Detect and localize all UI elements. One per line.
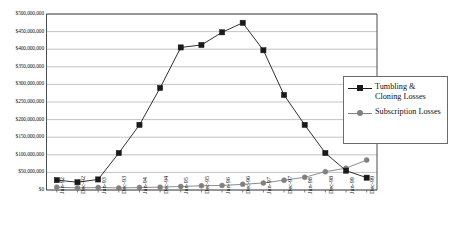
x-axis-tick-label: Jun-98 bbox=[307, 177, 313, 194]
legend-square-marker-icon bbox=[348, 84, 372, 93]
x-axis-tick-label: Jun-99 bbox=[349, 177, 355, 194]
chart-legend: Tumbling & Cloning LossesSubscription Lo… bbox=[343, 76, 448, 144]
x-axis-tick-label: Jun-93 bbox=[101, 177, 107, 194]
x-axis-tick-label: Dec-96 bbox=[245, 176, 251, 194]
x-axis-tick-label: Dec-92 bbox=[80, 176, 86, 194]
x-axis-tick-label: Dec-93 bbox=[121, 176, 127, 194]
legend-label: Tumbling & Cloning Losses bbox=[375, 82, 443, 101]
x-axis-tick-label: Dec-98 bbox=[328, 176, 334, 194]
x-axis-tick-label: Jun-96 bbox=[225, 177, 231, 194]
legend-circle-marker-icon bbox=[348, 109, 372, 118]
x-axis-tick-label: Dec-95 bbox=[204, 176, 210, 194]
x-axis-tick-label: Jun-97 bbox=[266, 177, 272, 194]
legend-label: Subscription Losses bbox=[375, 107, 441, 117]
line-chart: $500,000,000$450,000,000$400,000,000$350… bbox=[0, 0, 452, 233]
x-axis-tick-label: Jun-95 bbox=[183, 177, 189, 194]
x-axis-tick-label: Dec-97 bbox=[287, 176, 293, 194]
x-axis-tick-label: Dec-94 bbox=[163, 176, 169, 194]
legend-entry: Subscription Losses bbox=[348, 107, 443, 118]
x-axis-tick-label: Jun-94 bbox=[142, 177, 148, 194]
legend-entry: Tumbling & Cloning Losses bbox=[348, 82, 443, 101]
x-axis-tick-label: Jun-92 bbox=[59, 177, 65, 194]
x-axis-tick-label: Dec-99 bbox=[369, 176, 375, 194]
